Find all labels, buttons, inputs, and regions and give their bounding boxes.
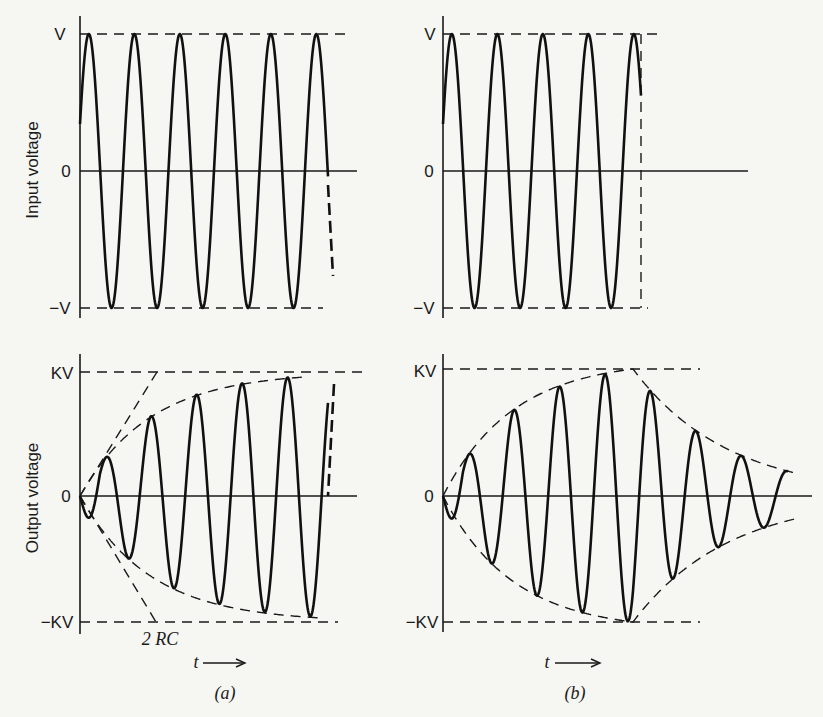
time-axis-label: t [193, 652, 199, 672]
tick-label-zero: 0 [424, 162, 433, 181]
tick-label-kv: KV [51, 364, 74, 383]
y-axis-label-input: Input voltage [23, 121, 42, 218]
tick-label-neg-v: −V [413, 299, 435, 318]
time-axis-indicator-a: t [193, 652, 245, 672]
output-continuation-dashed [328, 384, 334, 496]
panel-a-output-plot [80, 354, 367, 634]
panel-b-input-plot [443, 16, 748, 318]
figure-canvas: V 0 −V Input voltage V 0 −V KV 0 −KV Out… [0, 0, 823, 717]
tick-label-zero: 0 [424, 487, 433, 506]
panel-caption-a: (a) [215, 683, 236, 704]
tick-label-kv: KV [414, 362, 437, 381]
tick-label-zero: 0 [61, 487, 70, 506]
tick-label-neg-v: −V [49, 299, 71, 318]
output-wave [443, 374, 788, 621]
panel-caption-b: (b) [565, 683, 586, 704]
panel-a-input-plot [80, 16, 357, 318]
input-continuation-dashed [328, 185, 333, 276]
time-axis-label: t [544, 652, 550, 672]
output-wave [80, 378, 328, 617]
time-constant-annotation: 2 RC [142, 629, 179, 649]
panel-b-output-plot [443, 354, 812, 632]
tick-label-v: V [54, 25, 66, 44]
tick-label-v: V [424, 25, 436, 44]
tick-label-zero: 0 [61, 162, 70, 181]
tick-label-neg-kv: −KV [41, 613, 74, 632]
y-axis-label-output: Output voltage [23, 443, 42, 554]
upper-envelope [443, 369, 797, 496]
time-axis-indicator-b: t [544, 652, 600, 672]
tick-label-neg-kv: −KV [406, 613, 439, 632]
